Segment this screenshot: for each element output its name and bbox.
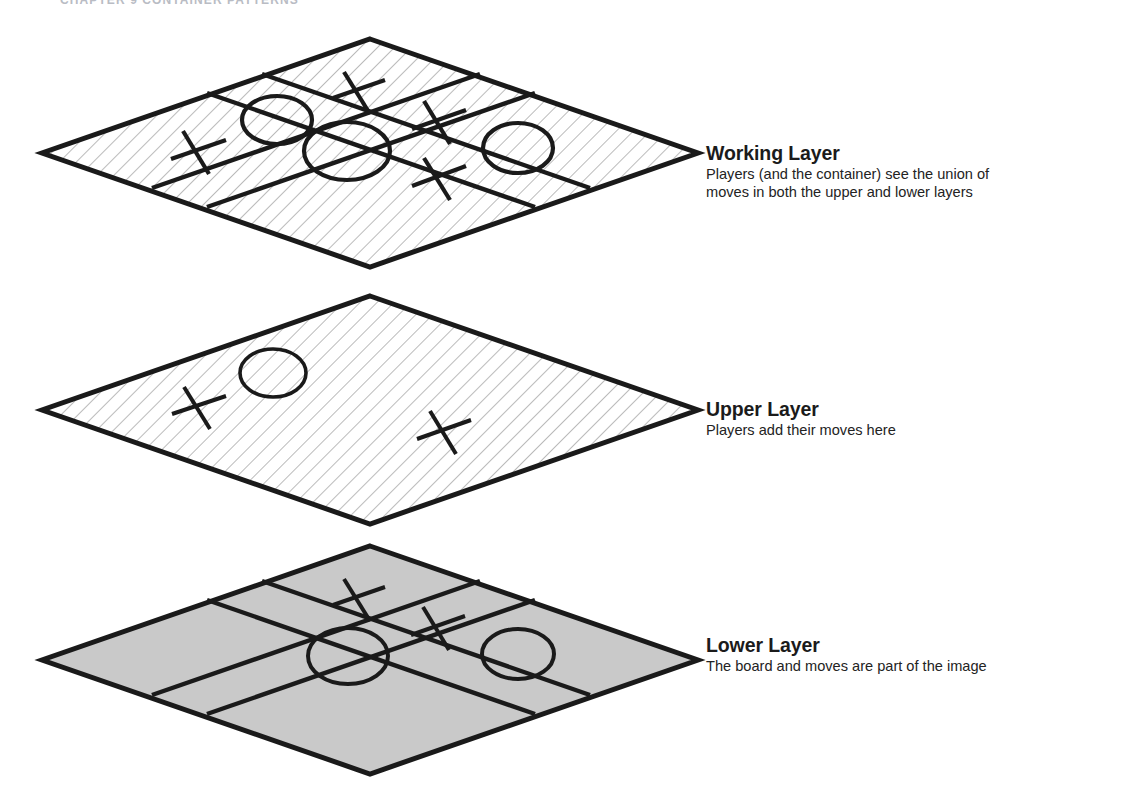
caption-working-layer: Working Layer Players (and the container… bbox=[706, 142, 989, 201]
working-layer-plane bbox=[42, 39, 698, 267]
caption-upper-layer: Upper Layer Players add their moves here bbox=[706, 398, 896, 440]
caption-lower-layer: Lower Layer The board and moves are part… bbox=[706, 634, 987, 676]
upper-layer-description-line-1: Players add their moves here bbox=[706, 422, 896, 440]
upper-layer-plane bbox=[42, 296, 698, 524]
layer-lower bbox=[42, 546, 698, 774]
working-layer-description-line-2: moves in both the upper and lower layers bbox=[706, 184, 989, 202]
working-layer-title: Working Layer bbox=[706, 142, 989, 164]
layer-working bbox=[42, 39, 698, 267]
lower-layer-description-line-1: The board and moves are part of the imag… bbox=[706, 658, 987, 676]
upper-layer-title: Upper Layer bbox=[706, 398, 896, 420]
layer-upper bbox=[42, 296, 698, 524]
lower-layer-plane bbox=[42, 546, 698, 774]
lower-layer-title: Lower Layer bbox=[706, 634, 987, 656]
layered-board-diagram bbox=[0, 0, 1132, 800]
diagram-page: CHAPTER 9 CONTAINER PATTERNS bbox=[0, 0, 1132, 800]
working-layer-description-line-1: Players (and the container) see the unio… bbox=[706, 166, 989, 184]
